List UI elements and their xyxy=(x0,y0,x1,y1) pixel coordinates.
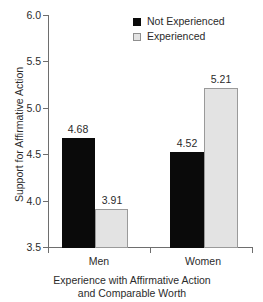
x-group-label-men: Men xyxy=(64,255,134,267)
y-tick-4.0 xyxy=(43,201,48,202)
legend-swatch-experienced-icon xyxy=(133,33,141,41)
y-tick-4.5 xyxy=(43,154,48,155)
bar-women-experienced xyxy=(204,88,238,248)
bar-men-experienced xyxy=(95,209,128,248)
x-tick-left xyxy=(48,248,49,253)
y-tick-5.5 xyxy=(43,61,48,62)
bar-value-women-experienced: 5.21 xyxy=(198,74,244,85)
x-group-label-women: Women xyxy=(168,255,238,267)
bar-value-women-not-experienced: 4.52 xyxy=(164,138,210,149)
legend: Not Experienced Experienced xyxy=(133,14,225,44)
y-tick-label-6.0: 6.0 xyxy=(1,10,41,20)
bar-chart: 6.0 5.5 5.0 4.5 4.0 3.5 Support for Affi… xyxy=(0,0,263,302)
y-tick-label-3.5: 3.5 xyxy=(1,242,41,252)
legend-label-not-experienced: Not Experienced xyxy=(147,16,225,27)
legend-swatch-not-experienced-icon xyxy=(133,18,141,26)
legend-item-not-experienced: Not Experienced xyxy=(133,14,225,29)
bar-women-not-experienced xyxy=(170,152,204,248)
y-axis-line xyxy=(48,15,49,248)
bar-value-men-not-experienced: 4.68 xyxy=(55,124,101,135)
x-axis-title-line2: and Comparable Worth xyxy=(12,287,252,300)
legend-label-experienced: Experienced xyxy=(147,31,205,42)
y-axis-title: Support for Affirmative Action xyxy=(14,55,25,215)
legend-item-experienced: Experienced xyxy=(133,29,225,44)
x-tick-middle xyxy=(150,248,151,253)
bar-value-men-experienced: 3.91 xyxy=(89,195,135,206)
bar-men-not-experienced xyxy=(62,138,95,248)
x-tick-right xyxy=(252,248,253,253)
y-tick-5.0 xyxy=(43,108,48,109)
x-axis-title: Experience with Affirmative Action and C… xyxy=(12,274,252,299)
x-axis-title-line1: Experience with Affirmative Action xyxy=(12,274,252,287)
y-tick-6.0 xyxy=(43,15,48,16)
